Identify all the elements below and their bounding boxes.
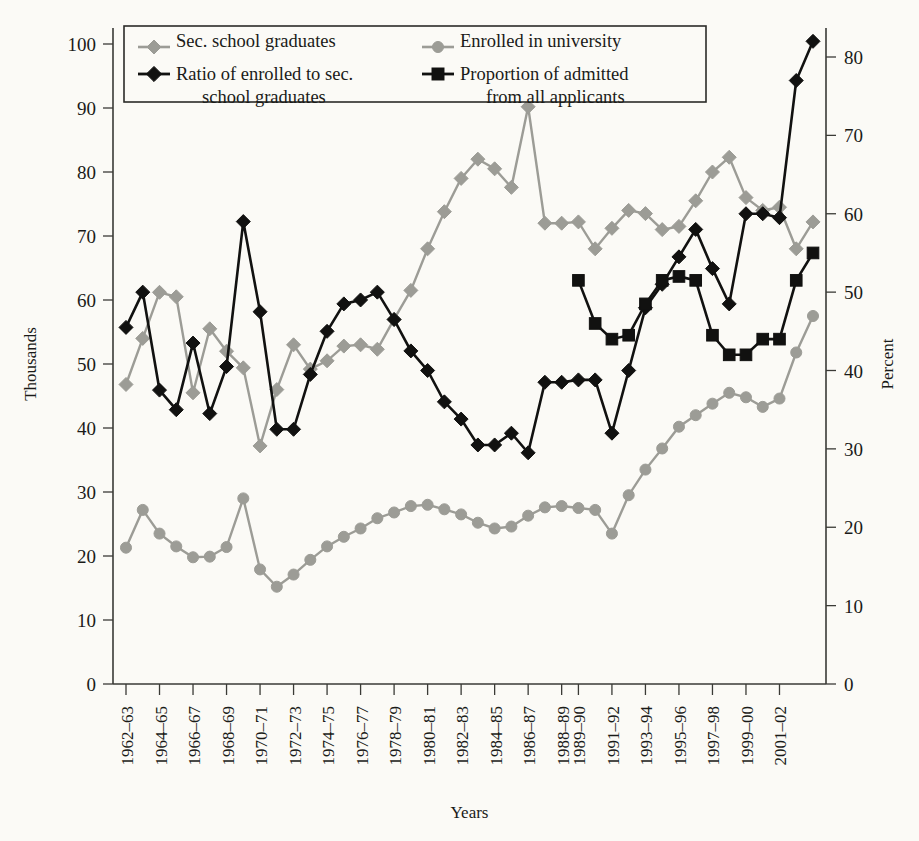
data-point-enrolled_in_university: [640, 464, 651, 475]
data-point-enrolled_in_university: [590, 504, 601, 515]
data-point-enrolled_in_university: [673, 421, 684, 432]
x-tick-label: 1964–65: [152, 706, 171, 766]
legend-marker-square-icon: [432, 68, 444, 80]
data-point-enrolled_in_university: [489, 523, 500, 534]
y-tick-label-left: 30: [77, 482, 96, 503]
x-tick-label: 1995–96: [671, 706, 690, 766]
x-tick-label: 1999–00: [738, 706, 757, 766]
data-point-enrolled_in_university: [523, 510, 534, 521]
legend-label: from all applicants: [486, 87, 625, 107]
data-point-enrolled_in_university: [338, 531, 349, 542]
data-point-enrolled_in_university: [255, 564, 266, 575]
data-point-proportion_admitted: [640, 298, 652, 310]
y-tick-label-right: 60: [844, 204, 863, 225]
data-point-enrolled_in_university: [238, 493, 249, 504]
data-point-enrolled_in_university: [606, 528, 617, 539]
legend-label: school graduates: [202, 87, 326, 107]
data-point-enrolled_in_university: [137, 504, 148, 515]
legend-label: Ratio of enrolled to sec.: [176, 64, 353, 84]
line-chart: 0102030405060708090100010203040506070801…: [0, 0, 919, 841]
data-point-proportion_admitted: [707, 329, 719, 341]
data-point-enrolled_in_university: [539, 502, 550, 513]
data-point-proportion_admitted: [807, 247, 819, 259]
data-point-proportion_admitted: [723, 349, 735, 361]
data-point-enrolled_in_university: [556, 501, 567, 512]
y-tick-label-right: 70: [844, 125, 863, 146]
y-tick-label-right: 20: [844, 517, 863, 538]
x-tick-label: 1980–81: [420, 706, 439, 766]
data-point-enrolled_in_university: [724, 387, 735, 398]
chart-legend: Sec. school graduatesEnrolled in univers…: [124, 26, 706, 107]
data-point-enrolled_in_university: [807, 310, 818, 321]
y-tick-label-left: 10: [77, 610, 96, 631]
x-tick-label: 1984–85: [487, 706, 506, 766]
legend-label: Sec. school graduates: [176, 31, 336, 51]
data-point-enrolled_in_university: [305, 554, 316, 565]
data-point-enrolled_in_university: [322, 541, 333, 552]
data-point-proportion_admitted: [573, 275, 585, 287]
data-point-proportion_admitted: [673, 271, 685, 283]
y-tick-label-left: 20: [77, 546, 96, 567]
x-tick-label: 1966–67: [185, 706, 204, 766]
data-point-enrolled_in_university: [573, 502, 584, 513]
data-point-enrolled_in_university: [791, 347, 802, 358]
data-point-enrolled_in_university: [372, 513, 383, 524]
data-point-enrolled_in_university: [439, 504, 450, 515]
data-point-enrolled_in_university: [271, 581, 282, 592]
chart-container: 0102030405060708090100010203040506070801…: [0, 0, 919, 841]
x-tick-label: 1974–75: [319, 706, 338, 766]
x-tick-label: 1970–71: [252, 706, 271, 766]
data-point-enrolled_in_university: [221, 542, 232, 553]
data-point-enrolled_in_university: [204, 551, 215, 562]
x-tick-label: 1982–83: [453, 706, 472, 766]
y-tick-label-right: 40: [844, 361, 863, 382]
data-point-enrolled_in_university: [774, 393, 785, 404]
x-tick-label: 1991–92: [604, 706, 623, 766]
y-tick-label-right: 10: [844, 596, 863, 617]
data-point-proportion_admitted: [606, 333, 618, 345]
y-tick-label-left: 60: [77, 290, 96, 311]
data-point-proportion_admitted: [589, 318, 601, 330]
y-tick-label-left: 70: [77, 226, 96, 247]
data-point-enrolled_in_university: [506, 521, 517, 532]
x-axis-title: Years: [451, 803, 489, 822]
data-point-proportion_admitted: [656, 275, 668, 287]
data-point-proportion_admitted: [774, 333, 786, 345]
data-point-enrolled_in_university: [405, 501, 416, 512]
data-point-proportion_admitted: [757, 333, 769, 345]
x-tick-label: 1976–77: [353, 706, 372, 766]
data-point-enrolled_in_university: [171, 541, 182, 552]
y-tick-label-right: 80: [844, 47, 863, 68]
legend-marker-circle-icon: [432, 41, 443, 52]
data-point-enrolled_in_university: [690, 410, 701, 421]
legend-label: Enrolled in university: [460, 31, 622, 51]
y-tick-label-left: 80: [77, 162, 96, 183]
x-tick-label: 2001–02: [771, 706, 790, 766]
data-point-enrolled_in_university: [707, 398, 718, 409]
y-tick-label-right: 0: [844, 674, 854, 695]
data-point-proportion_admitted: [740, 349, 752, 361]
y-axis-title-left: Thousands: [21, 327, 40, 401]
y-tick-label-left: 50: [77, 354, 96, 375]
x-tick-label: 1997–98: [704, 706, 723, 766]
data-point-enrolled_in_university: [154, 528, 165, 539]
x-tick-label: 1968–69: [219, 706, 238, 766]
y-tick-label-right: 50: [844, 282, 863, 303]
legend-label: Proportion of admitted: [460, 64, 629, 84]
data-point-enrolled_in_university: [472, 517, 483, 528]
data-point-enrolled_in_university: [188, 552, 199, 563]
x-tick-label: 1978–79: [386, 706, 405, 766]
y-tick-label-left: 90: [77, 98, 96, 119]
data-point-enrolled_in_university: [757, 401, 768, 412]
data-point-enrolled_in_university: [623, 490, 634, 501]
y-tick-label-left: 0: [87, 674, 97, 695]
data-point-enrolled_in_university: [456, 509, 467, 520]
data-point-proportion_admitted: [690, 275, 702, 287]
x-tick-label: 1986–87: [520, 706, 539, 766]
data-point-proportion_admitted: [790, 275, 802, 287]
x-tick-label: 1993–94: [637, 706, 656, 766]
data-point-enrolled_in_university: [422, 499, 433, 510]
data-point-enrolled_in_university: [355, 523, 366, 534]
data-point-enrolled_in_university: [288, 569, 299, 580]
y-tick-label-right: 30: [844, 439, 863, 460]
